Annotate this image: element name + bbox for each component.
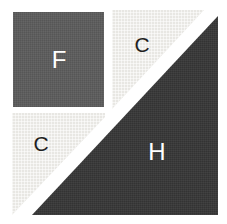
label-c-bottom-left: C bbox=[33, 133, 48, 154]
quilt-block-diagram: F C C H bbox=[0, 0, 227, 224]
label-f: F bbox=[52, 48, 67, 72]
label-c-top-right: C bbox=[134, 34, 149, 55]
label-h: H bbox=[148, 140, 165, 164]
